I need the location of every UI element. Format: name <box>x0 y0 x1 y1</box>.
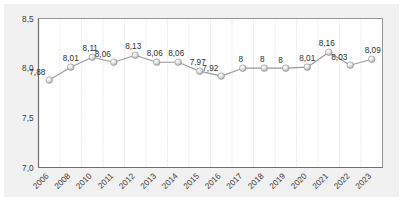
data-point-marker <box>239 65 246 72</box>
data-point-label: 8,13 <box>125 42 141 51</box>
y-tick-label: 7,0 <box>22 164 34 173</box>
data-point-marker <box>261 65 268 72</box>
data-point-marker <box>46 77 53 84</box>
data-point-label: 8,06 <box>168 49 184 58</box>
data-point-label: 7,88 <box>29 68 45 77</box>
data-point-label: 8,16 <box>319 39 335 48</box>
data-point-label: 8,09 <box>365 46 381 55</box>
x-tick-label: 2016 <box>203 171 223 191</box>
x-tick-label: 2015 <box>182 171 202 191</box>
data-point-marker <box>132 52 139 59</box>
x-tick-label: 2012 <box>117 171 137 191</box>
data-point-label: 8,06 <box>147 49 163 58</box>
data-point-label: 8 <box>278 56 283 65</box>
x-tick-label: 2006 <box>31 171 51 191</box>
data-point-marker <box>67 64 74 71</box>
data-point-label: 8,06 <box>95 50 111 59</box>
y-tick-label: 8,5 <box>22 15 34 24</box>
data-point-label: 8 <box>260 55 265 64</box>
x-tick-label: 2011 <box>96 171 115 190</box>
x-tick-label: 2010 <box>74 171 94 191</box>
data-point-label: 7,92 <box>202 64 218 73</box>
x-tick-label: 2018 <box>246 171 266 191</box>
data-point-marker <box>368 56 375 63</box>
data-point-marker <box>110 59 117 66</box>
x-tick-label: 2019 <box>268 171 288 191</box>
data-point-marker <box>153 59 160 66</box>
x-tick-label: 2008 <box>53 171 73 191</box>
line-chart: 7,07,58,08,5 200620082010201120122013201… <box>0 0 403 215</box>
chart-container: 7,07,58,08,5 200620082010201120122013201… <box>0 0 403 215</box>
data-point-marker <box>175 59 182 66</box>
y-tick-label: 7,5 <box>22 114 34 123</box>
x-tick-label: 2021 <box>311 171 331 191</box>
data-point-label: 8,03 <box>331 53 347 62</box>
x-tick-label: 2014 <box>160 171 180 191</box>
x-tick-label: 2023 <box>354 171 374 191</box>
data-point-marker <box>304 64 311 71</box>
data-point-marker <box>218 73 225 80</box>
x-axis-tick-labels: 2006200820102011201220132014201520162017… <box>31 171 373 191</box>
data-point-marker <box>347 62 354 69</box>
data-point-label: 8,01 <box>299 54 315 63</box>
x-tick-label: 2017 <box>225 171 245 191</box>
y-axis-tick-labels: 7,07,58,08,5 <box>22 15 34 173</box>
data-point-marker <box>282 65 289 72</box>
data-point-label: 8,01 <box>63 54 79 63</box>
x-tick-label: 2020 <box>289 171 309 191</box>
data-point-label: 8 <box>238 55 243 64</box>
x-tick-label: 2013 <box>139 171 159 191</box>
x-tick-label: 2022 <box>332 171 352 191</box>
